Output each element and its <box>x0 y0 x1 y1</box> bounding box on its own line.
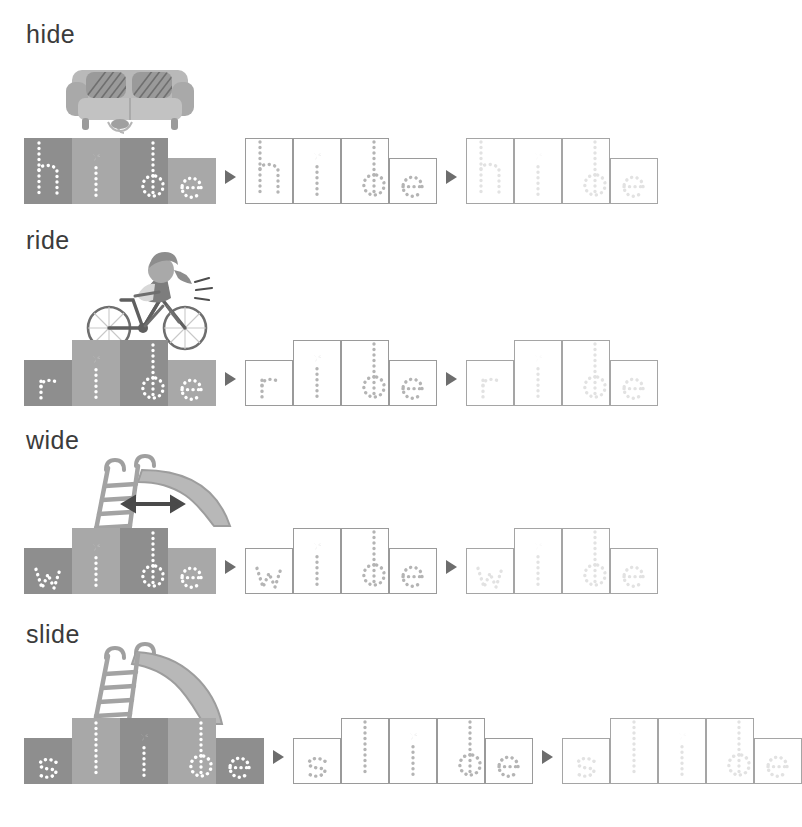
letter-box-d[interactable] <box>341 340 389 406</box>
letter-glyph-e <box>617 547 651 593</box>
letter-box-r[interactable] <box>24 360 72 406</box>
letter-box-d[interactable] <box>120 138 168 204</box>
letter-box-d[interactable] <box>341 528 389 594</box>
letter-box-e[interactable] <box>168 158 216 204</box>
letter-glyph-r <box>31 360 65 406</box>
stage-arrow-icon <box>446 372 457 386</box>
letter-glyph-e <box>175 360 209 406</box>
letter-box-i[interactable] <box>514 340 562 406</box>
stage-1-ride[interactable] <box>24 340 216 406</box>
stage-2-slide[interactable] <box>293 718 533 784</box>
letter-box-e[interactable] <box>168 548 216 594</box>
letter-box-s[interactable] <box>24 738 72 784</box>
letter-glyph-e <box>396 157 430 203</box>
letter-box-d[interactable] <box>706 718 754 784</box>
letter-glyph-i <box>79 528 113 594</box>
letter-box-i[interactable] <box>293 340 341 406</box>
letter-glyph-d <box>569 339 603 405</box>
letter-glyph-d <box>569 527 603 593</box>
letter-box-i[interactable] <box>72 138 120 204</box>
stage-2-ride[interactable] <box>245 340 437 406</box>
word-label-ride: ride <box>26 228 70 253</box>
letter-box-h[interactable] <box>466 138 514 204</box>
stage-3-wide[interactable] <box>466 528 658 594</box>
sofa-icon <box>60 52 200 138</box>
letter-box-l[interactable] <box>72 718 120 784</box>
letter-glyph-d <box>127 340 161 406</box>
letter-glyph-i <box>300 339 334 405</box>
letter-box-e[interactable] <box>610 360 658 406</box>
letter-glyph-l <box>348 717 382 783</box>
letter-glyph-e <box>761 737 795 783</box>
letter-box-e[interactable] <box>610 158 658 204</box>
letter-box-l[interactable] <box>610 718 658 784</box>
letter-glyph-s <box>300 737 334 783</box>
stage-arrow-icon <box>542 750 553 764</box>
letter-box-e[interactable] <box>389 548 437 594</box>
letter-box-w[interactable] <box>245 548 293 594</box>
stage-1-wide[interactable] <box>24 528 216 594</box>
stage-1-slide[interactable] <box>24 718 264 784</box>
word-label-wide: wide <box>26 428 79 453</box>
letter-box-i[interactable] <box>293 528 341 594</box>
word-label-slide: slide <box>26 622 80 647</box>
letter-box-e[interactable] <box>389 360 437 406</box>
letter-box-d[interactable] <box>168 718 216 784</box>
letter-box-l[interactable] <box>341 718 389 784</box>
letter-box-e[interactable] <box>389 158 437 204</box>
stage-2-hide[interactable] <box>245 138 437 204</box>
letter-glyph-l <box>79 718 113 784</box>
letter-box-i[interactable] <box>389 718 437 784</box>
letter-glyph-e <box>175 158 209 204</box>
stage-3-ride[interactable] <box>466 340 658 406</box>
letter-glyph-h <box>31 138 65 204</box>
letter-box-h[interactable] <box>245 138 293 204</box>
letter-glyph-d <box>713 717 747 783</box>
letter-glyph-h <box>252 137 286 203</box>
letter-glyph-r <box>473 359 507 405</box>
letter-box-r[interactable] <box>245 360 293 406</box>
letter-box-i[interactable] <box>72 528 120 594</box>
letter-box-h[interactable] <box>24 138 72 204</box>
letter-box-i[interactable] <box>658 718 706 784</box>
letter-glyph-e <box>223 738 257 784</box>
letter-box-d[interactable] <box>562 138 610 204</box>
letter-box-d[interactable] <box>120 340 168 406</box>
letter-box-e[interactable] <box>610 548 658 594</box>
letter-box-w[interactable] <box>466 548 514 594</box>
letter-box-d[interactable] <box>437 718 485 784</box>
letter-box-w[interactable] <box>24 548 72 594</box>
letter-box-i[interactable] <box>293 138 341 204</box>
letter-box-e[interactable] <box>754 738 802 784</box>
letter-box-s[interactable] <box>562 738 610 784</box>
stage-arrow-icon <box>225 170 236 184</box>
letter-box-d[interactable] <box>562 340 610 406</box>
letter-glyph-w <box>473 547 507 593</box>
stage-arrow-icon <box>446 560 457 574</box>
letter-box-i[interactable] <box>120 718 168 784</box>
letter-box-i[interactable] <box>72 340 120 406</box>
letter-box-i[interactable] <box>514 528 562 594</box>
letter-box-s[interactable] <box>293 738 341 784</box>
tracing-stages-ride <box>24 340 658 406</box>
letter-glyph-d <box>348 339 382 405</box>
stage-arrow-icon <box>225 560 236 574</box>
stage-1-hide[interactable] <box>24 138 216 204</box>
letter-box-e[interactable] <box>216 738 264 784</box>
word-label-hide: hide <box>26 22 75 47</box>
letter-box-i[interactable] <box>514 138 562 204</box>
letter-glyph-w <box>252 547 286 593</box>
tracing-stages-wide <box>24 528 658 594</box>
letter-box-d[interactable] <box>562 528 610 594</box>
stage-3-hide[interactable] <box>466 138 658 204</box>
letter-box-r[interactable] <box>466 360 514 406</box>
stage-2-wide[interactable] <box>245 528 437 594</box>
letter-box-d[interactable] <box>120 528 168 594</box>
letter-box-d[interactable] <box>341 138 389 204</box>
letter-glyph-d <box>127 528 161 594</box>
letter-box-e[interactable] <box>168 360 216 406</box>
stage-3-slide[interactable] <box>562 718 802 784</box>
letter-glyph-e <box>175 548 209 594</box>
letter-box-e[interactable] <box>485 738 533 784</box>
stage-arrow-icon <box>225 372 236 386</box>
